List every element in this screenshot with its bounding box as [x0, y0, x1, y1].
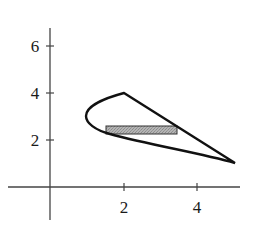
y-tick-label-4: 4 [31, 84, 40, 103]
y-tick-label-6: 6 [31, 37, 40, 56]
x-tick-label-4: 4 [193, 198, 202, 217]
chart: 2 4 2 4 6 [0, 0, 259, 229]
x-tick-label-2: 2 [120, 198, 129, 217]
y-tick-label-2: 2 [31, 131, 40, 150]
shaded-rectangle [106, 126, 177, 134]
